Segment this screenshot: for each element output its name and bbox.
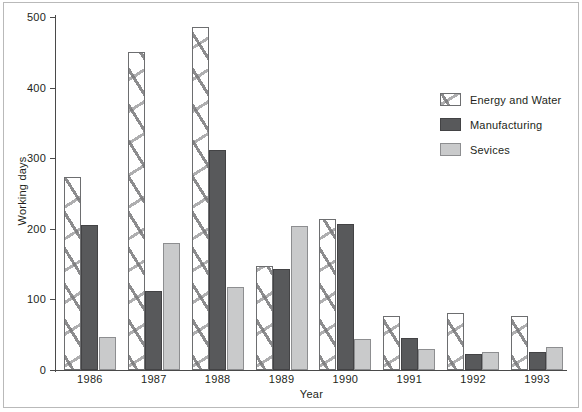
y-tick-mark [50, 370, 56, 371]
y-tick-label: 100 [6, 293, 46, 305]
x-axis-title: Year [56, 388, 567, 400]
x-axis-line [55, 370, 567, 371]
hatched-white-swatch [440, 93, 461, 106]
bar-group-1990: 1990 [319, 17, 371, 370]
bar-group-1986: 1986 [64, 17, 116, 370]
bar-group-1993: 1993 [511, 17, 563, 370]
x-tick-label-1991: 1991 [383, 373, 435, 385]
bar-manufacturing-1991 [401, 338, 418, 370]
bar-group-1987: 1987 [128, 17, 180, 370]
legend-label: Energy and Water [470, 94, 561, 106]
bar-services-1990 [354, 339, 371, 370]
y-axis-title: Working days [16, 131, 28, 251]
bar-manufacturing-1988 [209, 150, 226, 370]
bar-energy-and-water-1990 [319, 219, 336, 370]
bar-services-1989 [291, 226, 308, 370]
x-tick-label-1986: 1986 [64, 373, 116, 385]
bar-manufacturing-1987 [145, 291, 162, 370]
x-tick-label-1987: 1987 [128, 373, 180, 385]
legend-item-manufacturing: Manufacturing [440, 113, 580, 136]
chart-page: 5004003002001000 Working days 1986198719… [0, 0, 582, 412]
plot-area: 19861987198819891990199119921993 [56, 17, 567, 370]
bar-manufacturing-1992 [465, 354, 482, 370]
bar-group-1991: 1991 [383, 17, 435, 370]
bar-manufacturing-1986 [81, 225, 98, 370]
bar-group-1992: 1992 [447, 17, 499, 370]
y-tick-label: 500 [6, 11, 46, 23]
dark-gray-swatch [440, 118, 461, 131]
x-tick-label-1993: 1993 [511, 373, 563, 385]
legend-item-services: Sevices [440, 138, 580, 161]
legend-item-energy-and-water: Energy and Water [440, 88, 580, 111]
legend-label: Sevices [470, 144, 510, 156]
bar-services-1987 [163, 243, 180, 370]
bar-services-1991 [418, 349, 435, 370]
bar-manufacturing-1993 [529, 352, 546, 370]
bar-services-1992 [482, 352, 499, 370]
bar-energy-and-water-1989 [256, 266, 273, 370]
bar-services-1993 [546, 347, 563, 370]
legend-label: Manufacturing [470, 119, 542, 131]
bar-group-1988: 1988 [192, 17, 244, 370]
legend: Energy and WaterManufacturingSevices [440, 88, 580, 163]
bar-manufacturing-1989 [273, 269, 290, 370]
bar-energy-and-water-1987 [128, 52, 145, 370]
bar-group-1989: 1989 [256, 17, 308, 370]
bar-services-1986 [99, 337, 116, 370]
bar-energy-and-water-1986 [64, 177, 81, 370]
light-gray-swatch [440, 143, 461, 156]
x-tick-label-1989: 1989 [256, 373, 308, 385]
bar-energy-and-water-1992 [447, 313, 464, 370]
bar-energy-and-water-1988 [192, 27, 209, 370]
bar-energy-and-water-1993 [511, 316, 528, 370]
x-tick-label-1990: 1990 [319, 373, 371, 385]
bar-manufacturing-1990 [337, 224, 354, 370]
y-tick-label: 0 [6, 364, 46, 376]
bar-energy-and-water-1991 [383, 316, 400, 370]
bar-services-1988 [227, 287, 244, 370]
x-tick-label-1988: 1988 [192, 373, 244, 385]
x-tick-label-1992: 1992 [447, 373, 499, 385]
y-tick-label: 400 [6, 82, 46, 94]
